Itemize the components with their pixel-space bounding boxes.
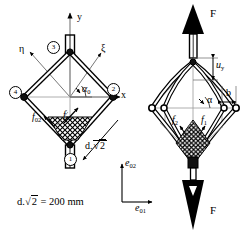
global-frame <box>122 164 152 202</box>
load-label-F-top: F <box>210 8 216 19</box>
node-label-1: 1 <box>64 153 77 166</box>
axis-label-x: x <box>121 90 126 100</box>
displacement-label-uy: uy <box>216 60 224 71</box>
frame-label-e02: e02 <box>125 158 136 169</box>
force-label-f2: f2 <box>172 115 178 126</box>
dimension-label-b: b <box>226 88 231 98</box>
force-F-top <box>182 4 204 58</box>
angle-label-alpha: α <box>207 95 212 105</box>
axis-label-y: y <box>77 12 82 22</box>
node-label-4: 4 <box>9 86 22 99</box>
caption-equation: d.√2 = 200 mm <box>17 196 84 207</box>
force-label-f1: f1 <box>201 115 207 126</box>
force-F-bottom <box>182 157 204 230</box>
right-diagram <box>122 4 239 230</box>
frame-label-e01: e01 <box>135 203 146 214</box>
axis-label-xi: ξ <box>101 43 105 53</box>
node-label-2: 2 <box>107 83 120 96</box>
load-label-F-bottom: F <box>210 205 216 216</box>
node-label-3: 3 <box>47 41 60 54</box>
force-label-f01: f01 <box>63 110 72 121</box>
force-label-f02: f02 <box>32 112 41 123</box>
dimension-label-dsqrt2: d.√2 <box>85 140 107 151</box>
axis-label-eta: η <box>19 44 24 54</box>
angle-label-alpha0: α0 <box>82 84 91 95</box>
